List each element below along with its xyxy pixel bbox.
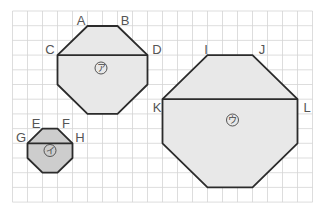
label-C: C: [45, 42, 54, 57]
label-A: A: [77, 13, 86, 28]
label-B: B: [121, 13, 130, 28]
label-G: G: [16, 130, 26, 145]
label-E: E: [32, 116, 41, 131]
octagon-a: ア A B C D: [45, 13, 161, 114]
diagram-canvas: ア A B C D イ E F G H ウ I J K L: [0, 0, 322, 209]
octagon-u: ウ I J K L: [153, 42, 311, 187]
label-I: I: [204, 42, 208, 57]
symbol-u: ウ: [228, 115, 237, 125]
octagon-diagram: ア A B C D イ E F G H ウ I J K L: [0, 0, 322, 209]
label-D: D: [152, 42, 161, 57]
octagon-i: イ E F G H: [16, 116, 85, 173]
label-J: J: [259, 42, 266, 57]
label-K: K: [153, 100, 162, 115]
symbol-a: ア: [97, 63, 106, 73]
symbol-i: イ: [46, 146, 55, 156]
label-H: H: [75, 130, 84, 145]
label-L: L: [303, 100, 310, 115]
label-F: F: [62, 116, 70, 131]
